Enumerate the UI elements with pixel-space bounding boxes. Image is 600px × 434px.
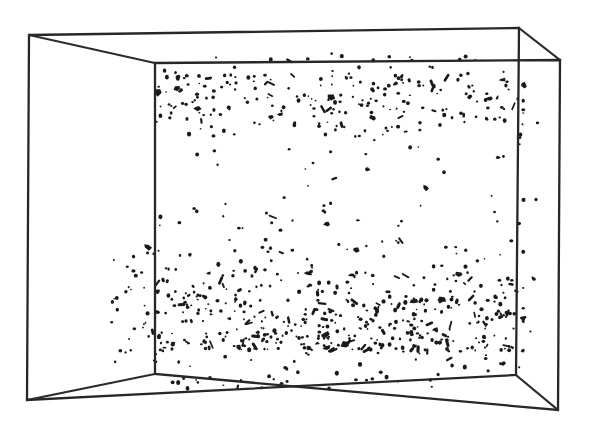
- data-point: [260, 327, 262, 329]
- data-point: [372, 283, 374, 285]
- data-point: [382, 134, 384, 136]
- data-point: [493, 334, 495, 336]
- data-point: [485, 354, 487, 356]
- data-point: [451, 296, 454, 298]
- data-point: [458, 304, 461, 306]
- data-point: [399, 337, 401, 340]
- data-point: [353, 85, 355, 87]
- data-point: [300, 325, 302, 327]
- data-point: [290, 249, 294, 252]
- data-point: [280, 279, 282, 281]
- data-point: [193, 290, 196, 293]
- data-point: [226, 81, 229, 85]
- data-point: [330, 112, 333, 115]
- data-point: [484, 328, 486, 330]
- data-point: [173, 304, 177, 307]
- data-point: [498, 279, 502, 282]
- data-point: [408, 145, 412, 149]
- data-point: [348, 335, 350, 337]
- data-point: [146, 251, 149, 254]
- data-point: [456, 253, 458, 255]
- data-point: [279, 229, 283, 232]
- data-point: [409, 94, 411, 96]
- data-point: [473, 90, 475, 93]
- data-point: [450, 297, 454, 301]
- data-point: [246, 75, 250, 80]
- data-point: [346, 249, 348, 251]
- data-point: [495, 312, 499, 316]
- data-point: [409, 331, 412, 334]
- data-point: [471, 84, 473, 86]
- data-point: [475, 337, 477, 339]
- data-point: [499, 254, 501, 256]
- data-point: [330, 52, 333, 55]
- data-point: [246, 101, 249, 104]
- data-point: [421, 106, 425, 109]
- data-point: [471, 346, 474, 350]
- data-point: [234, 81, 237, 84]
- data-point: [366, 309, 369, 311]
- data-point: [320, 84, 322, 86]
- data-point: [132, 255, 135, 259]
- data-point: [272, 328, 276, 332]
- data-point: [185, 292, 187, 294]
- data-point: [485, 316, 489, 320]
- data-point: [493, 117, 496, 120]
- data-point: [498, 117, 501, 119]
- data-point: [375, 309, 379, 314]
- data-point: [345, 76, 347, 78]
- data-point: [147, 335, 149, 338]
- data-point: [394, 81, 398, 84]
- data-point: [329, 150, 332, 153]
- data-point: [307, 285, 310, 287]
- data-point: [265, 211, 268, 214]
- data-point: [185, 117, 188, 121]
- data-point: [223, 74, 226, 78]
- data-point: [322, 326, 325, 328]
- data-point: [364, 153, 367, 155]
- data-point: [502, 314, 505, 317]
- data-point: [303, 346, 307, 350]
- data-point: [345, 280, 349, 283]
- data-point: [317, 125, 321, 128]
- data-point: [484, 258, 486, 259]
- data-point: [125, 351, 127, 353]
- data-point: [184, 319, 187, 322]
- data-point: [334, 322, 336, 324]
- data-point: [391, 336, 395, 340]
- data-point: [456, 78, 459, 82]
- data-point: [197, 299, 199, 301]
- data-point: [213, 149, 217, 152]
- data-point: [203, 85, 207, 88]
- data-point: [491, 318, 494, 321]
- data-point: [390, 303, 392, 305]
- data-point: [370, 111, 374, 114]
- data-point: [321, 334, 324, 337]
- data-point: [476, 322, 478, 324]
- data-point: [222, 215, 224, 217]
- data-point: [276, 273, 279, 276]
- data-point: [369, 347, 373, 351]
- data-point: [234, 310, 236, 312]
- data-point: [403, 300, 407, 305]
- data-point: [434, 308, 436, 310]
- data-point: [367, 102, 370, 105]
- data-point: [263, 348, 265, 351]
- data-point: [205, 96, 208, 99]
- data-point: [402, 319, 404, 321]
- data-point: [447, 336, 449, 338]
- data-point: [273, 378, 275, 381]
- data-point: [134, 274, 138, 278]
- data-point: [491, 195, 493, 197]
- data-point: [176, 380, 180, 385]
- data-point: [388, 294, 392, 298]
- data-point: [270, 79, 272, 81]
- data-point: [466, 271, 469, 274]
- data-point: [420, 320, 423, 323]
- data-point: [348, 292, 351, 295]
- data-point: [404, 295, 407, 298]
- data-point: [534, 198, 537, 202]
- data-point: [338, 110, 341, 113]
- data-point: [317, 331, 321, 334]
- data-point: [522, 112, 524, 114]
